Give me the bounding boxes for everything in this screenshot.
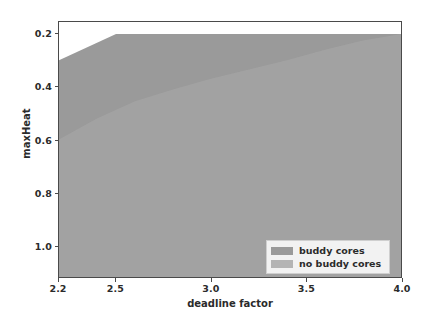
x-tick-mark xyxy=(402,278,403,282)
x-axis-title: deadline factor xyxy=(58,298,402,309)
legend-label: no buddy cores xyxy=(299,259,381,269)
legend-item: no buddy cores xyxy=(271,257,384,270)
x-tick-label: 2.5 xyxy=(107,283,124,294)
y-tick-mark xyxy=(55,33,59,34)
y-tick-label: 0.2 xyxy=(16,27,52,38)
x-tick-label: 3.5 xyxy=(298,283,315,294)
chart-figure: 0.20.40.60.81.0 2.22.53.03.54.0 deadline… xyxy=(0,0,427,328)
legend-item: buddy cores xyxy=(271,244,384,257)
y-tick-mark xyxy=(55,140,59,141)
x-tick-label: 2.2 xyxy=(49,283,66,294)
x-tick-label: 3.0 xyxy=(202,283,219,294)
x-tick-label: 4.0 xyxy=(393,283,410,294)
x-tick-mark xyxy=(306,278,307,282)
legend-swatch-buddy-cores xyxy=(271,247,293,255)
x-tick-mark xyxy=(115,278,116,282)
legend-label: buddy cores xyxy=(299,246,365,256)
chart-legend: buddy cores no buddy cores xyxy=(266,240,390,274)
y-tick-label: 0.4 xyxy=(16,81,52,92)
x-tick-mark xyxy=(211,278,212,282)
y-tick-mark xyxy=(55,246,59,247)
x-tick-mark xyxy=(58,278,59,282)
y-tick-mark xyxy=(55,193,59,194)
y-tick-mark xyxy=(55,86,59,87)
y-axis-title: maxHeat xyxy=(21,94,32,174)
area-chart-svg xyxy=(59,22,401,277)
y-tick-label: 0.8 xyxy=(16,187,52,198)
legend-swatch-no-buddy-cores xyxy=(271,260,293,268)
y-tick-label: 1.0 xyxy=(16,241,52,252)
